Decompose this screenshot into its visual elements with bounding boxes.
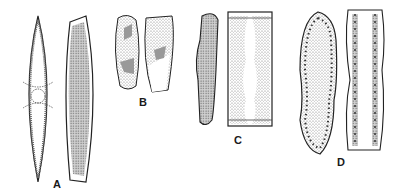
panel-label-a: A [53,178,61,190]
cell-d-valve [300,12,337,154]
cell-b-1 [115,15,139,89]
cell-a-girdle [66,16,93,182]
panel-label-b: B [139,96,147,108]
cell-c-girdle [228,12,272,126]
cell-c-valve [196,14,218,125]
cell-d-girdle [346,10,384,150]
cell-b-2 [145,16,173,92]
panel-label-d: D [337,156,345,168]
cell-a-valve [23,16,53,182]
panel-label-c: C [234,134,242,146]
diatom-illustration: A B C D [0,0,401,194]
